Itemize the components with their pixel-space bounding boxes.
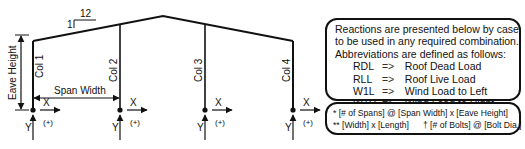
column-1-label: Col 1	[34, 54, 45, 78]
slope-rise: 1	[67, 19, 73, 30]
legend-box: * [# of Spans] @ [Span Width] x [Eave He…	[325, 102, 521, 135]
x-axis-label: X	[43, 97, 50, 108]
span-width-label: Span Width	[54, 85, 106, 96]
x-axis-label: X	[130, 97, 137, 108]
notes-intro-line: Abbreviations are defined as follows:	[335, 48, 519, 60]
abbreviation-meaning: Roof Dead Load	[405, 60, 481, 72]
notes-intro-line: Reactions are presented below by case	[335, 23, 519, 35]
column-2-label: Col 2	[108, 58, 119, 82]
abbreviation-w1l: W1L => Wind Load to Left	[335, 85, 519, 97]
abbreviation-code: RLL	[353, 73, 379, 85]
x-axis-label: X	[215, 97, 222, 108]
column-4-label: Col 4	[281, 58, 292, 82]
column-3-reaction: X Y (+)	[197, 97, 232, 140]
abbreviation-rll: RLL => Roof Live Load	[335, 73, 519, 85]
positive-label: (+)	[130, 118, 140, 127]
slope-run: 12	[80, 8, 92, 19]
notes-intro-line: to be used in any required combination.	[335, 35, 519, 47]
abbreviation-meaning: Wind Load to Left	[405, 85, 487, 97]
abbreviation-code: RDL	[353, 60, 379, 72]
arrow-icon: =>	[382, 60, 402, 72]
legend-line-2: ** [Width] x [Length]† [# of Bolts] @ [B…	[333, 119, 519, 131]
positive-label: (+)	[43, 118, 53, 127]
abbreviation-rdl: RDL => Roof Dead Load	[335, 60, 519, 72]
abbreviation-meaning: Roof Live Load	[405, 73, 476, 85]
positive-label: (+)	[215, 118, 225, 127]
abbreviation-code: W1L	[353, 85, 379, 97]
slope-indicator: 1 12	[67, 8, 96, 30]
y-axis-label: Y	[112, 122, 119, 133]
eave-height-label: Eave Height	[7, 45, 18, 100]
positive-label: (+)	[303, 118, 313, 127]
legend-dimensions: ** [Width] x [Length]	[333, 120, 409, 130]
x-axis-label: X	[303, 97, 310, 108]
arrow-icon: =>	[382, 73, 402, 85]
column-4-reaction: X Y (+)	[285, 97, 320, 140]
y-axis-label: Y	[25, 122, 32, 133]
y-axis-label: Y	[285, 122, 292, 133]
column-1-reaction: X Y (+)	[25, 97, 60, 140]
arrow-icon: =>	[382, 85, 402, 97]
eave-height-dimension: Eave Height	[7, 35, 29, 110]
y-axis-label: Y	[197, 122, 204, 133]
legend-line-1: * [# of Spans] @ [Span Width] x [Eave He…	[333, 107, 519, 119]
column-3-label: Col 3	[193, 58, 204, 82]
notes-box: Reactions are presented below by case to…	[325, 18, 521, 101]
legend-bolts: † [# of Bolts] @ [Bolt Dia.]	[423, 120, 522, 130]
column-2-reaction: X Y (+)	[112, 97, 147, 140]
